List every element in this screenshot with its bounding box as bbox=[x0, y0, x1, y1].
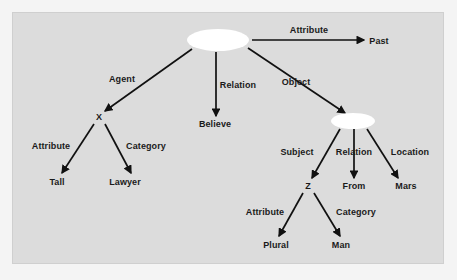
edge-label-e-location-mars: Location bbox=[391, 147, 429, 157]
node-label-plural[interactable]: Plural bbox=[263, 240, 289, 250]
node-label-believe[interactable]: Believe bbox=[199, 119, 231, 129]
edge-label-e-relation-believe: Relation bbox=[220, 80, 256, 90]
edge-label-e-attribute-tall: Attribute bbox=[32, 141, 70, 151]
edge-label-e-subject-z: Subject bbox=[280, 147, 313, 157]
node-label-tall[interactable]: Tall bbox=[49, 177, 64, 187]
node-label-from[interactable]: From bbox=[343, 181, 366, 191]
diagram-canvas: AttributeAgentRelationObjectAttributeCat… bbox=[0, 0, 457, 280]
node-ellipse-obj[interactable] bbox=[331, 113, 375, 129]
node-label-z[interactable]: Z bbox=[305, 181, 311, 191]
node-ellipse-root[interactable] bbox=[187, 29, 249, 51]
edge-label-e-attribute-plural: Attribute bbox=[246, 207, 284, 217]
edge-label-e-object-obj: Object bbox=[282, 77, 311, 87]
node-label-past[interactable]: Past bbox=[369, 36, 388, 46]
edge-label-e-relation-from: Relation bbox=[336, 147, 372, 157]
node-label-mars[interactable]: Mars bbox=[395, 181, 416, 191]
edge-label-e-agent-x: Agent bbox=[109, 74, 135, 84]
node-label-lawyer[interactable]: Lawyer bbox=[109, 177, 141, 187]
edge-label-e-category-man: Category bbox=[336, 207, 376, 217]
node-label-x[interactable]: X bbox=[96, 112, 102, 122]
edge-label-e-attribute-past: Attribute bbox=[290, 25, 328, 35]
node-label-man[interactable]: Man bbox=[332, 240, 350, 250]
edge-label-e-category-lawyer: Category bbox=[126, 141, 166, 151]
